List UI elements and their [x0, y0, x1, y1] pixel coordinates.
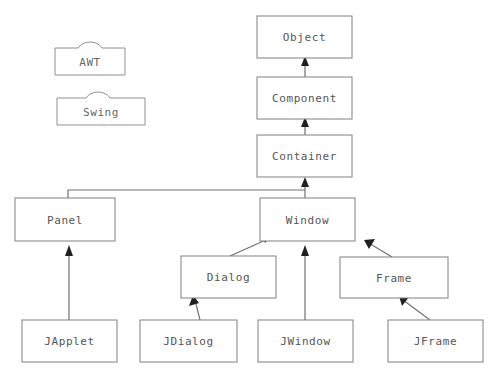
edge-line	[403, 300, 430, 320]
class-box-panel[interactable]: Panel	[15, 198, 115, 241]
inheritance-arrowhead-icon	[65, 245, 73, 256]
inheritance-arrowhead-icon	[364, 239, 375, 249]
class-box-label: Component	[272, 92, 337, 105]
edge-container-to-component	[301, 117, 309, 135]
class-box-japplet[interactable]: JApplet	[22, 320, 117, 362]
edge-panel-to-container	[68, 190, 305, 198]
edge-japplet-to-panel	[65, 245, 73, 320]
edge-line	[230, 239, 268, 256]
class-box-dialog[interactable]: Dialog	[181, 256, 276, 298]
class-box-label: Dialog	[207, 271, 250, 284]
class-box-jwindow[interactable]: JWindow	[258, 320, 353, 362]
class-box-label: JApplet	[44, 335, 95, 348]
class-box-label: JDialog	[163, 335, 214, 348]
inheritance-arrowhead-icon	[301, 177, 309, 187]
edge-component-to-object	[301, 56, 309, 77]
edge-window-to-container	[301, 177, 309, 198]
class-box-jdialog[interactable]: JDialog	[140, 320, 237, 362]
class-box-label: Container	[272, 150, 337, 163]
diagram-canvas: AWTSwing ObjectComponentContainerPanelWi…	[0, 0, 504, 380]
class-box-label: JFrame	[414, 335, 457, 348]
legend-item-swing: Swing	[57, 92, 145, 125]
class-box-label: JWindow	[280, 335, 331, 348]
class-box-object[interactable]: Object	[257, 16, 352, 58]
edge-jwindow-to-window	[301, 245, 309, 320]
legend-item-label: Swing	[83, 106, 119, 119]
class-box-label: Window	[286, 214, 329, 227]
class-box-frame[interactable]: Frame	[340, 257, 448, 298]
class-hierarchy-diagram: AWTSwing ObjectComponentContainerPanelWi…	[0, 0, 504, 380]
edge-jdialog-to-dialog	[189, 295, 200, 320]
class-box-label: Panel	[47, 214, 83, 227]
legend-group: AWTSwing	[55, 42, 145, 125]
inheritance-arrowhead-icon	[301, 245, 309, 256]
legend-item-label: AWT	[79, 56, 101, 69]
edge-line	[68, 190, 305, 198]
edge-frame-to-window	[364, 239, 392, 257]
class-box-component[interactable]: Component	[257, 77, 352, 119]
class-box-label: Object	[283, 31, 326, 44]
class-box-label: Frame	[376, 272, 412, 285]
class-box-container[interactable]: Container	[257, 135, 352, 177]
edge-jframe-to-frame	[399, 296, 430, 320]
class-box-jframe[interactable]: JFrame	[388, 320, 483, 362]
legend-item-awt: AWT	[55, 42, 125, 75]
class-box-window[interactable]: Window	[260, 198, 355, 241]
